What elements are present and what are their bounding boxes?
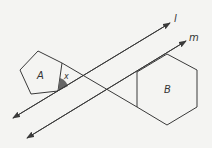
label-b: B (164, 84, 171, 95)
label-line-m: m (189, 32, 199, 43)
label-angle-x: x (63, 72, 69, 81)
label-line-l: l (174, 13, 177, 24)
label-a: A (36, 70, 44, 81)
pentagon-edge-extension (62, 63, 137, 107)
geometry-diagram: A x B l m (0, 0, 212, 148)
